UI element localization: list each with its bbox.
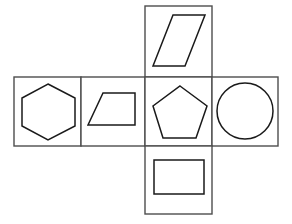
rectangle-figure <box>154 160 204 194</box>
circle-figure <box>217 83 273 139</box>
cube-net-diagram <box>0 0 292 224</box>
diagram-canvas <box>0 0 292 224</box>
